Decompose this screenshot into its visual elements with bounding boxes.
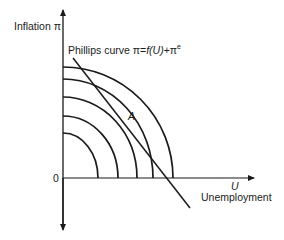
x-axis-label: Unemployment <box>201 192 272 203</box>
phillips-label-prefix: Phillips curve π= <box>68 44 146 56</box>
x-axis-symbol: U <box>231 181 239 192</box>
indifference-curve-3 <box>63 97 137 178</box>
indifference-curve-2 <box>63 116 118 178</box>
point-a-label: A <box>128 111 135 122</box>
y-axis-label: Inflation π <box>14 21 61 32</box>
origin-label: 0 <box>53 173 59 184</box>
phillips-curve-label: Phillips curve π=f(U)+πe <box>68 43 181 55</box>
phillips-label-suffix: +π <box>164 44 177 56</box>
indifference-curve-4 <box>63 79 153 178</box>
indifference-curve-1 <box>63 133 98 178</box>
phillips-curve-line <box>73 58 190 208</box>
phillips-label-formula: f(U) <box>146 44 164 56</box>
phillips-label-sup: e <box>177 43 181 50</box>
